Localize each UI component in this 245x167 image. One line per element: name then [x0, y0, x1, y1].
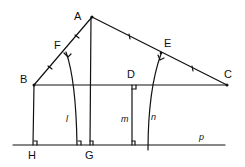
point-label-D: D [127, 69, 135, 80]
point-label-G: G [85, 150, 94, 161]
line-label-m: m [121, 115, 129, 124]
geometry-diagram: A B C D E F G H l m n p [0, 0, 245, 167]
segment-BH [33, 85, 34, 145]
segment-AB [34, 17, 92, 85]
segment-AC [92, 17, 227, 85]
line-n [148, 54, 161, 150]
point-label-C: C [224, 69, 232, 80]
point-label-H: H [28, 150, 36, 161]
point-label-E: E [164, 38, 171, 49]
tick-mark [192, 66, 193, 71]
line-label-n: n [151, 113, 156, 122]
line-l [66, 52, 77, 145]
tick-mark [129, 34, 130, 39]
line-label-l: l [66, 115, 68, 124]
point-label-A: A [74, 11, 81, 22]
point-label-B: B [20, 74, 27, 85]
diagram-drawing [0, 0, 245, 167]
line-label-p: p [199, 133, 204, 142]
point-label-F: F [54, 40, 61, 51]
segment-AG [90, 17, 91, 145]
